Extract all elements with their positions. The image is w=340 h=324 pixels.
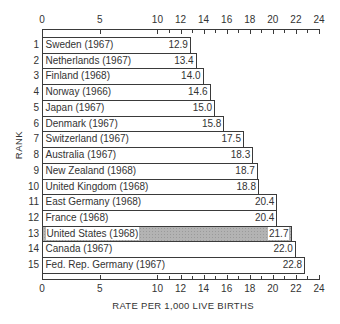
bottom-tick-label: 0 xyxy=(39,283,45,295)
bar: France (1968)20.4 xyxy=(42,210,278,227)
top-tick-label: 16 xyxy=(221,14,232,26)
bottom-minor-tick xyxy=(192,276,193,280)
value-label: 18.7 xyxy=(235,164,254,177)
top-major-tick xyxy=(273,29,274,34)
rank-number: 10 xyxy=(19,180,39,194)
bar: Fed. Rep. Germany (1967)22.8 xyxy=(42,257,306,274)
top-tick-label: 10 xyxy=(152,14,163,26)
top-tick-label: 5 xyxy=(97,14,103,26)
top-major-tick xyxy=(227,29,228,34)
bottom-tick-label: 12 xyxy=(175,283,186,295)
rank-number: 1 xyxy=(19,38,39,52)
bottom-minor-tick xyxy=(261,276,262,280)
country-label: Norway (1966) xyxy=(46,85,112,98)
bottom-tick-label: 16 xyxy=(221,283,232,295)
bottom-major-tick xyxy=(204,275,205,280)
bar: United States (1968)21.7 xyxy=(42,226,293,243)
value-label: 14.6 xyxy=(188,85,207,98)
top-tick-label: 22 xyxy=(290,14,301,26)
y-axis-title: RANK xyxy=(13,131,24,159)
value-label: 20.4 xyxy=(255,195,274,208)
top-minor-tick xyxy=(261,29,262,33)
bottom-minor-tick xyxy=(284,276,285,280)
bar: Canada (1967)22.0 xyxy=(42,241,296,258)
value-label: 15.8 xyxy=(202,117,221,130)
top-minor-tick xyxy=(192,29,193,33)
country-label: Fed. Rep. Germany (1967) xyxy=(46,258,166,271)
bottom-major-tick xyxy=(42,275,43,280)
x-axis-title: RATE PER 1,000 LIVE BIRTHS xyxy=(112,300,254,311)
bottom-major-tick xyxy=(250,275,251,280)
top-minor-tick xyxy=(284,29,285,33)
country-label: New Zealand (1968) xyxy=(46,164,137,177)
top-minor-tick xyxy=(215,29,216,33)
country-label: Switzerland (1967) xyxy=(46,132,129,145)
bottom-major-tick xyxy=(100,275,101,280)
country-label: Canada (1967) xyxy=(46,242,113,255)
top-major-tick xyxy=(42,29,43,34)
bar: New Zealand (1968)18.7 xyxy=(42,163,258,180)
bottom-minor-tick xyxy=(215,276,216,280)
bottom-major-tick xyxy=(273,275,274,280)
value-label: 14.0 xyxy=(181,69,200,82)
country-label: France (1968) xyxy=(46,211,109,224)
bottom-major-tick xyxy=(296,275,297,280)
bar: Switzerland (1967)17.5 xyxy=(42,131,244,148)
bottom-minor-tick xyxy=(169,276,170,280)
bar: Norway (1966)14.6 xyxy=(42,84,211,101)
rank-number: 3 xyxy=(19,69,39,83)
top-tick-label: 12 xyxy=(175,14,186,26)
infant-mortality-bar-chart: 005510101212141416161818202022222424 1Sw… xyxy=(0,0,340,324)
country-label: Finland (1968) xyxy=(46,69,110,82)
bar: Finland (1968)14.0 xyxy=(42,68,204,85)
top-tick-label: 20 xyxy=(267,14,278,26)
rank-number: 11 xyxy=(19,195,39,209)
rank-number: 13 xyxy=(19,227,39,241)
bottom-minor-tick xyxy=(238,276,239,280)
country-label: Australia (1967) xyxy=(46,148,117,161)
country-label: Netherlands (1967) xyxy=(46,54,132,67)
rank-number: 6 xyxy=(19,117,39,131)
value-label: 13.4 xyxy=(174,54,193,67)
top-major-tick xyxy=(157,29,158,34)
value-label: 18.8 xyxy=(237,180,256,193)
bar: United Kingdom (1968)18.8 xyxy=(42,179,259,196)
country-label: Japan (1967) xyxy=(46,101,105,114)
top-major-tick xyxy=(100,29,101,34)
bottom-tick-label: 5 xyxy=(97,283,103,295)
value-label: 22.0 xyxy=(273,242,292,255)
bar: Sweden (1967)12.9 xyxy=(42,37,191,54)
rank-number: 5 xyxy=(19,101,39,115)
bottom-major-tick xyxy=(227,275,228,280)
value-label: 18.3 xyxy=(231,148,250,161)
top-minor-tick xyxy=(169,29,170,33)
bar: Japan (1967)15.0 xyxy=(42,100,216,117)
country-label: Sweden (1967) xyxy=(46,38,114,51)
country-label: United Kingdom (1968) xyxy=(46,180,149,193)
rank-number: 9 xyxy=(19,164,39,178)
top-tick-label: 24 xyxy=(313,14,324,26)
bottom-tick-label: 22 xyxy=(290,283,301,295)
value-label: 17.5 xyxy=(222,132,241,145)
bar: East Germany (1968)20.4 xyxy=(42,194,278,211)
bottom-minor-tick xyxy=(307,276,308,280)
bottom-major-tick xyxy=(181,275,182,280)
bottom-tick-label: 24 xyxy=(313,283,324,295)
bottom-tick-label: 20 xyxy=(267,283,278,295)
value-label: 20.4 xyxy=(255,211,274,224)
bottom-tick-label: 14 xyxy=(198,283,209,295)
bottom-major-tick xyxy=(319,275,320,280)
value-label: 15.0 xyxy=(193,101,212,114)
top-tick-label: 14 xyxy=(198,14,209,26)
bar: Netherlands (1967)13.4 xyxy=(42,53,197,70)
bar: Australia (1967)18.3 xyxy=(42,147,254,164)
top-major-tick xyxy=(250,29,251,34)
rank-number: 4 xyxy=(19,85,39,99)
value-label: 12.9 xyxy=(168,38,187,51)
top-minor-tick xyxy=(238,29,239,33)
value-label: 21.7 xyxy=(268,227,289,240)
country-label: East Germany (1968) xyxy=(46,195,142,208)
rank-number: 12 xyxy=(19,211,39,225)
country-label: United States (1968) xyxy=(46,227,140,240)
top-major-tick xyxy=(181,29,182,34)
